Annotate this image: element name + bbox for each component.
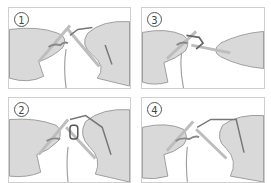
step-4-panel: 4	[141, 97, 265, 183]
step-number-badge: 1	[14, 12, 29, 27]
step-number-badge: 3	[147, 12, 162, 27]
step-3-panel: 3	[141, 7, 265, 89]
step-2-panel: 2	[8, 97, 131, 183]
step-number-badge: 4	[147, 102, 162, 117]
step-number-badge: 2	[14, 102, 29, 117]
step-1-panel: 1	[8, 7, 131, 89]
